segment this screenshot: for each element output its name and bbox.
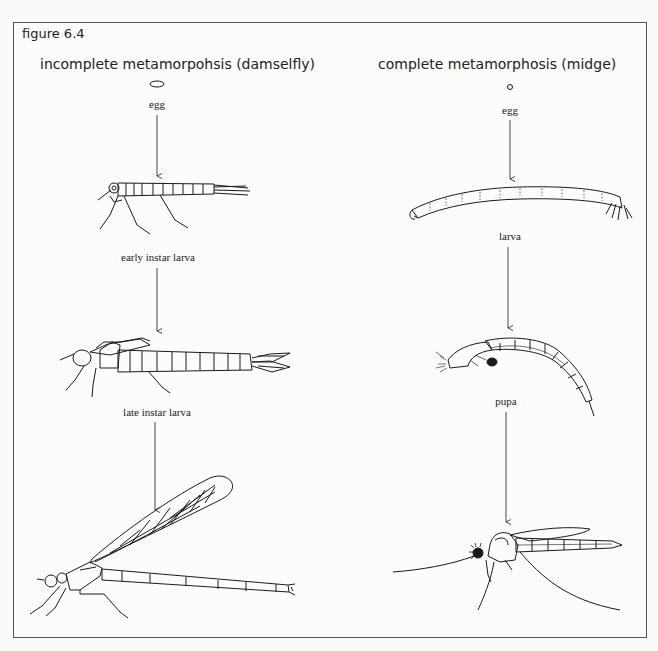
damselfly-early-larva-icon: [98, 183, 250, 234]
damselfly-late-larva-icon: [60, 338, 290, 397]
midge-larva-icon: [410, 187, 632, 220]
egg-oval-icon: [150, 81, 164, 87]
midge-pupa-icon: [436, 338, 594, 416]
diagram-artwork: [0, 0, 658, 651]
adult-midge-icon: [393, 528, 622, 610]
adult-damselfly-icon: [30, 476, 295, 618]
egg-round-icon: [508, 85, 513, 90]
